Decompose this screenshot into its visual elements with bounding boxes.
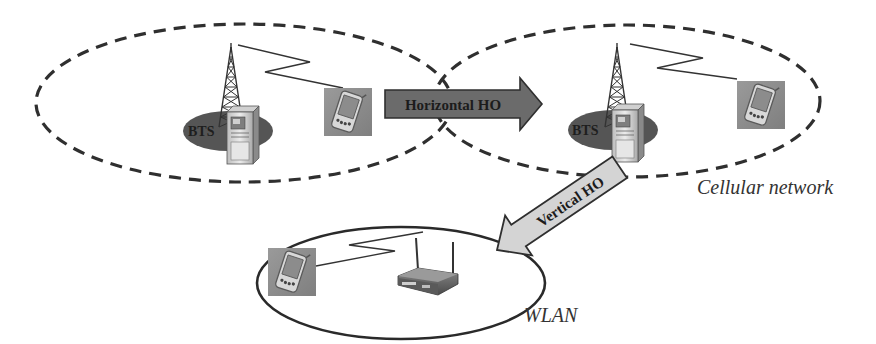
pda-mobile-icon xyxy=(737,80,785,129)
wireless-router-icon xyxy=(398,238,458,295)
radio-link-zigzag-icon xyxy=(316,232,423,266)
base-station-cabinet-icon xyxy=(612,104,644,162)
horizontal-ho-label: Horizontal HO xyxy=(405,97,501,113)
pda-mobile-icon xyxy=(268,247,316,296)
diagram-svg: BTS BTS Horizontal HO Cellular network xyxy=(0,0,876,344)
radio-link-zigzag-icon xyxy=(630,44,737,79)
cellular-network-label: Cellular network xyxy=(697,176,834,198)
base-station-cabinet-icon xyxy=(227,106,259,164)
bts-left-label: BTS xyxy=(188,124,215,139)
wlan-label: WLAN xyxy=(524,304,579,326)
horizontal-ho-arrow: Horizontal HO xyxy=(385,78,542,130)
bts-right-label: BTS xyxy=(572,123,599,138)
radio-link-zigzag-icon xyxy=(238,45,343,88)
vertical-ho-arrow: Vertical HO xyxy=(484,147,634,270)
handover-diagram: BTS BTS Horizontal HO Cellular network xyxy=(0,0,876,344)
pda-mobile-icon xyxy=(324,87,372,136)
